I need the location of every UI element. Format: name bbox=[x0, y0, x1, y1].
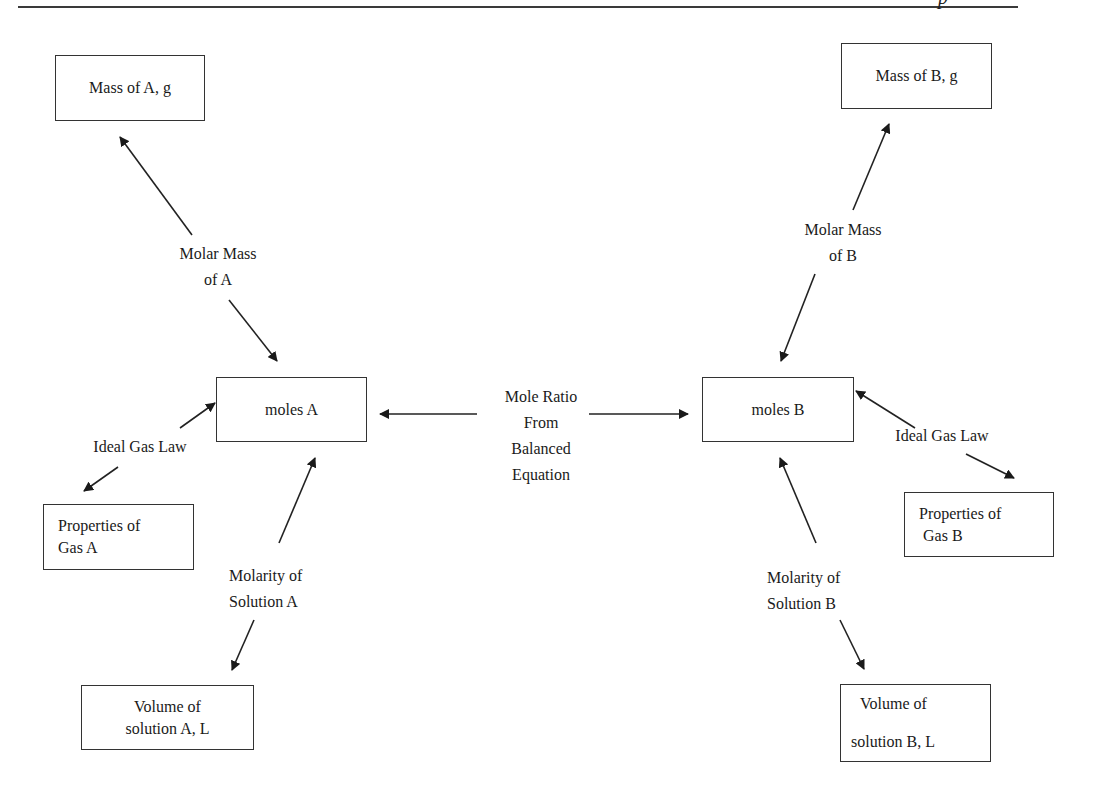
molarity-b-line2: Solution B bbox=[767, 591, 840, 617]
moles-a-text: moles A bbox=[265, 399, 318, 421]
arrow-to-moles-a-from-molar-mass bbox=[229, 300, 277, 361]
molar-mass-b-line1: Molar Mass bbox=[790, 217, 896, 243]
molar-mass-a-line2: of A bbox=[166, 267, 270, 293]
molar-mass-b-line2: of B bbox=[790, 243, 896, 269]
arrow-to-mass-b bbox=[853, 124, 889, 210]
moles-a-box: moles A bbox=[216, 377, 367, 442]
properties-gas-a-box: Properties of Gas A bbox=[43, 504, 194, 570]
mass-of-b-text: Mass of B, g bbox=[876, 65, 958, 87]
properties-gas-a-line2: Gas A bbox=[58, 537, 98, 559]
volume-solution-a-line1: Volume of bbox=[134, 696, 201, 718]
volume-solution-b-line1: Volume of bbox=[851, 685, 927, 723]
molarity-b-line1: Molarity of bbox=[767, 565, 840, 591]
ideal-gas-law-a-text: Ideal Gas Law bbox=[78, 434, 202, 460]
mass-of-a-box: Mass of A, g bbox=[55, 55, 205, 121]
molarity-solution-a-label: Molarity of Solution A bbox=[229, 563, 302, 615]
arrow-to-gas-b bbox=[966, 454, 1014, 478]
properties-gas-a-line1: Properties of bbox=[58, 515, 140, 537]
mole-ratio-line2: From bbox=[486, 410, 596, 436]
arrow-to-mass-a bbox=[120, 137, 192, 235]
mass-of-b-box: Mass of B, g bbox=[841, 43, 992, 109]
mole-ratio-label: Mole Ratio From Balanced Equation bbox=[486, 384, 596, 488]
molarity-solution-b-label: Molarity of Solution B bbox=[767, 565, 840, 617]
ideal-gas-law-a-label: Ideal Gas Law bbox=[78, 434, 202, 460]
arrow-to-gas-a bbox=[84, 467, 118, 491]
properties-gas-b-line1: Properties of bbox=[919, 503, 1001, 525]
header-page-glyph: p bbox=[938, 0, 948, 9]
arrow-to-volume-b bbox=[840, 620, 864, 669]
arrow-to-moles-a-from-ideal-gas bbox=[180, 403, 215, 428]
mass-of-a-text: Mass of A, g bbox=[89, 77, 171, 99]
arrow-to-moles-b-from-molarity bbox=[780, 458, 816, 543]
molar-mass-b-label: Molar Mass of B bbox=[790, 217, 896, 269]
arrow-to-moles-b-from-molar-mass bbox=[781, 274, 815, 361]
properties-gas-b-box: Properties of Gas B bbox=[904, 492, 1054, 557]
volume-solution-b-line2: solution B, L bbox=[851, 723, 935, 761]
moles-b-box: moles B bbox=[702, 377, 854, 442]
ideal-gas-law-b-label: Ideal Gas Law bbox=[879, 423, 1005, 449]
mole-ratio-line3: Balanced bbox=[486, 436, 596, 462]
mole-ratio-line1: Mole Ratio bbox=[486, 384, 596, 410]
arrow-to-moles-a-from-molarity bbox=[279, 458, 315, 543]
mole-ratio-line4: Equation bbox=[486, 462, 596, 488]
volume-solution-a-box: Volume of solution A, L bbox=[81, 685, 254, 750]
molarity-a-line1: Molarity of bbox=[229, 563, 302, 589]
arrow-to-volume-a bbox=[232, 620, 254, 670]
header-rule bbox=[18, 6, 1018, 8]
molarity-a-line2: Solution A bbox=[229, 589, 302, 615]
ideal-gas-law-b-text: Ideal Gas Law bbox=[879, 423, 1005, 449]
moles-b-text: moles B bbox=[752, 399, 805, 421]
molar-mass-a-line1: Molar Mass bbox=[166, 241, 270, 267]
molar-mass-a-label: Molar Mass of A bbox=[166, 241, 270, 293]
properties-gas-b-line2: Gas B bbox=[919, 525, 963, 547]
volume-solution-a-line2: solution A, L bbox=[125, 718, 209, 740]
volume-solution-b-box: Volume of solution B, L bbox=[840, 684, 991, 762]
